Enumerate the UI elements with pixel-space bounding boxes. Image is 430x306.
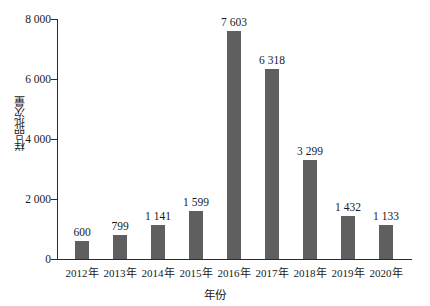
bar-group: 7 603 xyxy=(215,19,253,259)
bar-group: 600 xyxy=(63,19,101,259)
y-tick-label: 4 000 xyxy=(5,133,51,145)
y-tick-label: 6 000 xyxy=(5,73,51,85)
plot-area: 6007991 1411 5997 6036 3183 2991 4321 13… xyxy=(57,19,412,259)
bar xyxy=(379,225,393,259)
bar-value-label: 600 xyxy=(73,226,90,238)
bar-value-label: 6 318 xyxy=(259,54,285,66)
bar-value-label: 1 133 xyxy=(373,210,399,222)
bar-group: 1 599 xyxy=(177,19,215,259)
bar xyxy=(113,235,127,259)
bar xyxy=(151,225,165,259)
bar-group: 1 432 xyxy=(329,19,367,259)
bar-value-label: 799 xyxy=(111,220,128,232)
bar-value-label: 1 599 xyxy=(183,196,209,208)
bar-group: 1 141 xyxy=(139,19,177,259)
bar-value-label: 1 141 xyxy=(145,210,171,222)
y-tick-label: 0 xyxy=(5,253,51,265)
bar-group: 3 299 xyxy=(291,19,329,259)
bar xyxy=(303,160,317,259)
bar-value-label: 3 299 xyxy=(297,145,323,157)
bar xyxy=(75,241,89,259)
bar xyxy=(189,211,203,259)
x-tick-label: 2020年 xyxy=(364,264,408,280)
bar xyxy=(265,69,279,259)
bar-value-label: 7 603 xyxy=(221,16,247,28)
y-tick-label: 8 000 xyxy=(5,13,51,25)
bar xyxy=(227,31,241,259)
bar-chart: 样品批次量 02 0004 0006 0008 000 6007991 1411… xyxy=(0,0,430,306)
bar xyxy=(341,216,355,259)
x-axis-title: 年份 xyxy=(0,286,430,302)
bar-value-label: 1 432 xyxy=(335,201,361,213)
bar-group: 799 xyxy=(101,19,139,259)
bar-group: 1 133 xyxy=(367,19,405,259)
bar-group: 6 318 xyxy=(253,19,291,259)
x-axis-line xyxy=(57,259,412,260)
y-tick-label: 2 000 xyxy=(5,193,51,205)
